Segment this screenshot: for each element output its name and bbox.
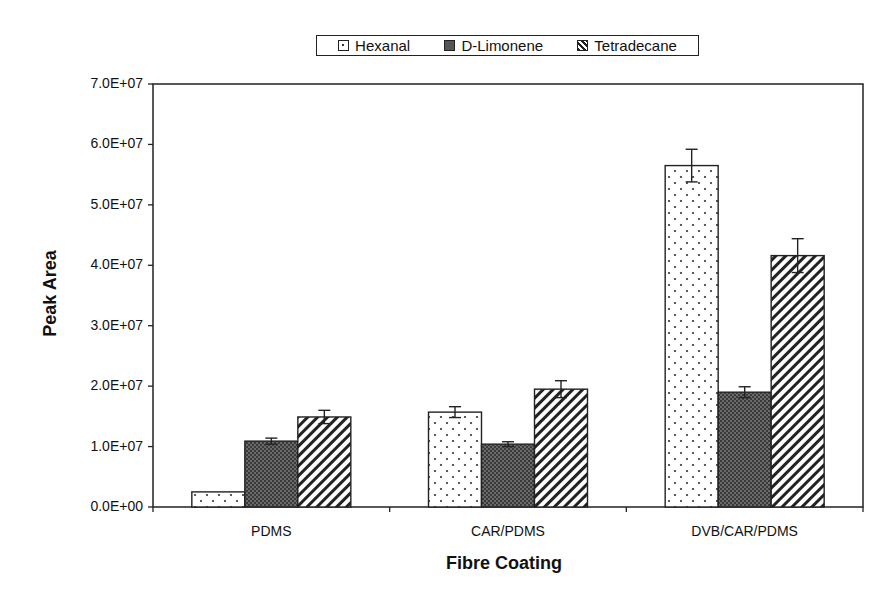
y-tick-label: 2.0E+07 — [63, 377, 143, 393]
legend-label: Tetradecane — [594, 37, 677, 54]
bar-hexanal-pdms — [192, 492, 245, 507]
legend-item-tetradecane: Tetradecane — [577, 37, 677, 54]
dark-crosshatch-swatch-icon — [444, 40, 455, 51]
bar-d-limonene-car-pdms — [482, 444, 535, 507]
bar-chart — [0, 0, 889, 607]
diagonal-hatch-swatch-icon — [577, 40, 588, 51]
bar-hexanal-car-pdms — [429, 412, 482, 507]
bar-tetradecane-car-pdms — [535, 389, 588, 507]
y-axis-title: Peak Area — [40, 234, 61, 354]
legend-label: D-Limonene — [461, 37, 543, 54]
bar-d-limonene-pdms — [245, 441, 298, 507]
y-tick-label: 5.0E+07 — [63, 196, 143, 212]
x-category-label: CAR/PDMS — [428, 523, 588, 539]
bar-d-limonene-dvb-car-pdms — [718, 392, 771, 507]
y-tick-label: 7.0E+07 — [63, 75, 143, 91]
x-category-label: DVB/CAR/PDMS — [665, 523, 825, 539]
y-tick-label: 1.0E+07 — [63, 438, 143, 454]
x-category-label: PDMS — [191, 523, 351, 539]
y-tick-label: 3.0E+07 — [63, 317, 143, 333]
legend: Hexanal D-Limonene Tetradecane — [316, 35, 699, 56]
bar-hexanal-dvb-car-pdms — [665, 166, 718, 507]
bar-tetradecane-dvb-car-pdms — [771, 256, 824, 507]
legend-item-d-limonene: D-Limonene — [444, 37, 543, 54]
bar-tetradecane-pdms — [298, 417, 351, 507]
bars-group — [192, 149, 824, 507]
x-axis-title: Fibre Coating — [344, 553, 664, 574]
y-tick-label: 0.0E+00 — [63, 498, 143, 514]
y-tick-label: 6.0E+07 — [63, 135, 143, 151]
legend-item-hexanal: Hexanal — [338, 37, 410, 54]
y-tick-label: 4.0E+07 — [63, 256, 143, 272]
legend-label: Hexanal — [355, 37, 410, 54]
dotted-swatch-icon — [338, 40, 349, 51]
